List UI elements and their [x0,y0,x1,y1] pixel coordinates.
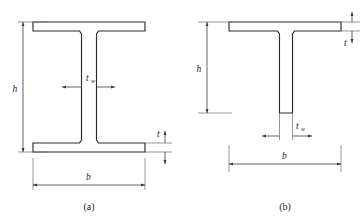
caption-a: (a) [83,201,94,213]
dimension-t-b: t [341,12,360,48]
label-b-a: b [86,172,91,182]
label-b-b: b [282,151,287,161]
cross-section-figure: h t w t b [0,0,362,221]
t-section-outline [229,22,341,113]
dimension-h-b: h [197,22,233,113]
label-tw-b: t [296,121,299,131]
label-t-a: t [157,129,160,139]
label-tw-a: t [86,73,89,83]
label-h-a: h [13,84,18,94]
dimension-b-b: b [229,145,341,172]
figure-container: h t w t b [0,0,362,221]
i-beam-profile [33,22,145,152]
panel-b-group: h t t w [197,12,361,213]
dimension-t-a: t [145,129,172,164]
panel-a-group: h t w t b [13,22,173,213]
label-tw-sub-b: w [301,125,306,132]
caption-b: (b) [279,201,291,213]
i-section-outline [33,22,145,152]
dimension-b-a: b [33,158,145,190]
t-beam-profile [229,22,341,113]
label-h-b: h [197,64,202,74]
dimension-h-a: h [13,22,48,152]
label-t-b: t [344,38,347,48]
dimension-tw-b: t w [262,113,312,140]
